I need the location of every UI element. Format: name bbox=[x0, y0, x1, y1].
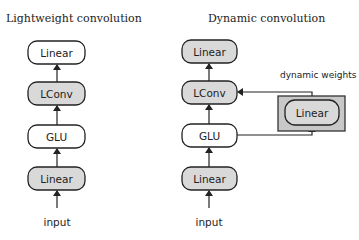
side-node-linear: Linear bbox=[296, 107, 329, 119]
left-node-glu: GLU bbox=[28, 125, 85, 148]
right-node-glu: GLU bbox=[182, 124, 237, 147]
dynamic-weights-label: dynamic weights bbox=[280, 70, 357, 80]
right-input-label: input bbox=[195, 216, 222, 228]
svg-text:Linear: Linear bbox=[40, 47, 73, 59]
left-node-linear-top: Linear bbox=[28, 41, 85, 64]
svg-text:Linear: Linear bbox=[193, 173, 226, 185]
svg-text:LConv: LConv bbox=[193, 87, 225, 99]
left-node-linear-bottom: Linear bbox=[28, 167, 85, 190]
right-node-linear-bottom: Linear bbox=[182, 167, 237, 190]
svg-text:Linear: Linear bbox=[193, 46, 226, 58]
diagram-canvas: Lightweight convolution Linear LConv GLU… bbox=[0, 0, 359, 240]
svg-text:GLU: GLU bbox=[46, 131, 67, 143]
dynamic-weights-box: Linear bbox=[278, 96, 345, 131]
svg-text:GLU: GLU bbox=[199, 130, 220, 142]
right-title: Dynamic convolution bbox=[208, 12, 325, 25]
left-input-label: input bbox=[43, 216, 70, 228]
right-node-linear-top: Linear bbox=[182, 40, 237, 63]
svg-text:Linear: Linear bbox=[40, 173, 73, 185]
left-title: Lightweight convolution bbox=[6, 12, 142, 25]
left-node-lconv: LConv bbox=[28, 82, 85, 105]
right-node-lconv: LConv bbox=[182, 81, 237, 104]
svg-text:LConv: LConv bbox=[40, 88, 72, 100]
